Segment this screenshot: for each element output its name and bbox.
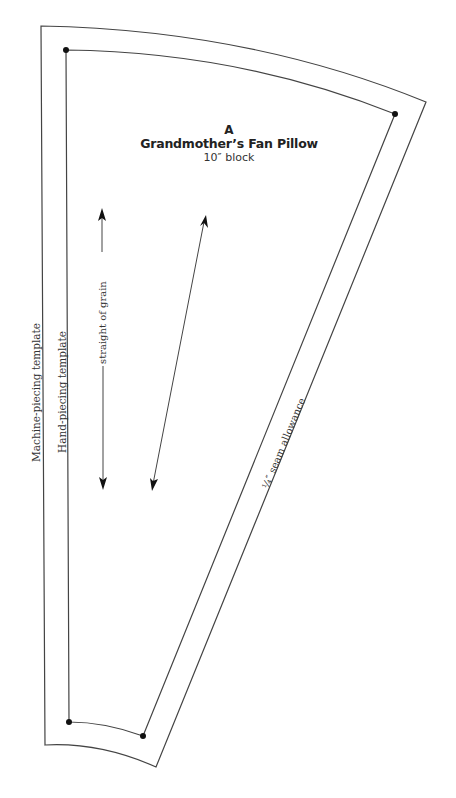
grain-arrow-diagonal xyxy=(153,222,204,484)
template-drawing xyxy=(0,0,456,798)
arrowhead-diagonal-up-icon xyxy=(200,215,208,228)
grain-label: straight of grain xyxy=(97,281,108,364)
pattern-title: Grandmother’s Fan Pillow xyxy=(124,137,334,151)
hand-piecing-label: Hand-piecing template xyxy=(56,331,68,453)
corner-dot-top-left xyxy=(63,47,69,53)
pattern-subtitle: 10″ block xyxy=(124,151,334,164)
corner-dot-bottom-left xyxy=(66,719,72,725)
pattern-title-block: A Grandmother’s Fan Pillow 10″ block xyxy=(124,124,334,164)
machine-piecing-label: Machine-piecing template xyxy=(30,323,42,462)
corner-dot-bottom-right xyxy=(140,733,146,739)
corner-dot-top-right xyxy=(392,111,398,117)
